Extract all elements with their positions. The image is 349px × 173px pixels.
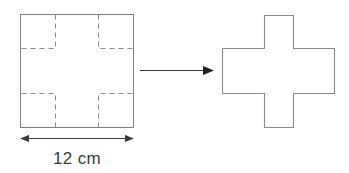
transform-arrow: [140, 66, 214, 75]
source-square-group: [21, 15, 134, 128]
cut-line-top-right: [99, 15, 134, 49]
cross-outline: [223, 16, 335, 128]
dimension-arrowhead-left: [20, 135, 29, 142]
transform-arrowhead: [203, 66, 214, 75]
width-dimension: 12 cm: [20, 135, 134, 168]
figure-canvas: 12 cm: [0, 0, 349, 173]
geometry-figure: 12 cm: [0, 0, 349, 173]
cut-line-top-left: [21, 15, 56, 49]
square-outline: [21, 15, 134, 128]
result-cross-group: [223, 16, 335, 128]
cut-line-bottom-left: [21, 94, 56, 128]
dimension-arrowhead-right: [125, 135, 134, 142]
cut-line-bottom-right: [99, 94, 134, 128]
dimension-label: 12 cm: [53, 149, 101, 168]
